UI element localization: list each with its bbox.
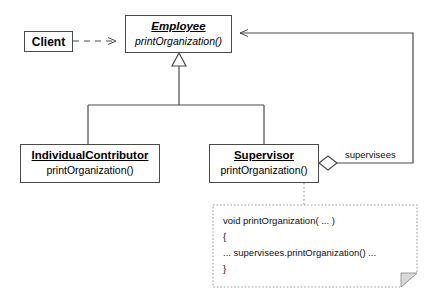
note-line-4: } [223,261,407,277]
class-box-employee[interactable]: Employee printOrganization() [125,15,232,53]
note-supervisor-implementation: void printOrganization( ... ) { ... supe… [213,205,417,287]
generalization-triangle-icon [88,53,264,144]
note-line-1: void printOrganization( ... ) [223,213,407,229]
uml-class-diagram: Employee --> Client Employee printOrgani… [0,0,428,299]
class-box-supervisor[interactable]: Supervisor printOrganization() [209,144,319,183]
class-name-individual-contributor: IndividualContributor [21,145,159,163]
class-box-individual-contributor[interactable]: IndividualContributor printOrganization(… [20,144,160,183]
note-line-2: { [223,229,407,245]
note-line-3: ... supervisees.printOrganization() ... [223,245,407,261]
edge-label-supervisees: supervisees [343,149,398,160]
class-operation-individual-contributor-printorganization: printOrganization() [21,163,159,179]
class-name-employee: Employee [126,16,231,34]
class-name-supervisor: Supervisor [210,145,318,163]
class-box-client[interactable]: Client [24,31,73,52]
class-operation-supervisor-printorganization: printOrganization() [210,163,318,179]
note-body: void printOrganization( ... ) { ... supe… [213,205,417,287]
class-operation-employee-printorganization: printOrganization() [126,34,231,50]
class-name-client: Client [32,35,65,49]
